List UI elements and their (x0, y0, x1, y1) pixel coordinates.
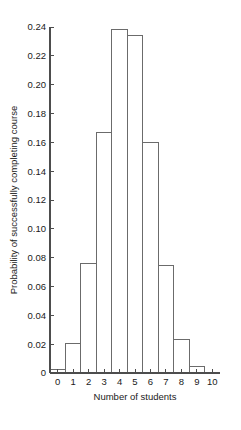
x-tick-label: 10 (207, 376, 218, 387)
histogram-bar (174, 340, 189, 373)
x-tick-label: 3 (101, 376, 106, 387)
histogram-bar (81, 263, 96, 373)
y-tick-label: 0.04 (28, 310, 47, 321)
histogram-bar (127, 36, 142, 373)
y-tick-label: 0.20 (28, 79, 47, 90)
histogram-bar (158, 265, 173, 373)
y-axis-title: Probability of successfully completing c… (8, 106, 19, 295)
y-tick-label: 0.18 (28, 108, 47, 119)
x-tick-label: 5 (132, 376, 137, 387)
y-tick-label: 0.02 (28, 339, 47, 350)
y-tick-label: 0.12 (28, 194, 47, 205)
x-tick-label: 1 (71, 376, 76, 387)
chart-figure: 00.020.040.060.080.100.120.140.160.180.2… (0, 0, 241, 430)
histogram-plot: 00.020.040.060.080.100.120.140.160.180.2… (0, 0, 241, 430)
histogram-bar (143, 143, 158, 373)
y-tick-label: 0.22 (28, 50, 47, 61)
x-tick-label: 4 (117, 376, 122, 387)
histogram-bar (112, 29, 127, 373)
y-tick-label: 0 (41, 367, 46, 378)
x-tick-label: 9 (194, 376, 199, 387)
histogram-bar (96, 133, 111, 373)
x-tick-label: 6 (148, 376, 153, 387)
y-tick-label: 0.24 (28, 21, 47, 32)
bars-group (50, 29, 205, 373)
y-tick-label: 0.10 (28, 223, 47, 234)
y-tick-label: 0.06 (28, 281, 47, 292)
histogram-bar (65, 343, 80, 373)
y-tick-label: 0.16 (28, 137, 47, 148)
x-tick-label: 2 (86, 376, 91, 387)
x-tick-label: 8 (179, 376, 184, 387)
x-tick-label: 7 (163, 376, 168, 387)
y-tick-label: 0.08 (28, 252, 47, 263)
x-axis-title: Number of students (94, 391, 177, 402)
y-tick-label: 0.14 (28, 166, 47, 177)
x-tick-label: 0 (55, 376, 60, 387)
